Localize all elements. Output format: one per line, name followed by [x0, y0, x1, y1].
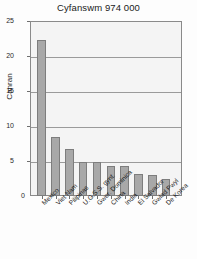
y-tick-label: 5: [0, 157, 14, 164]
bar: [37, 40, 46, 196]
y-tick-label: 25: [0, 17, 14, 24]
y-axis-zero-label: 0: [21, 192, 25, 199]
bar-chart: Cyfanswm 974 000 510152025 Canran 0 Mexi…: [0, 0, 197, 259]
x-axis-labels: 0 MexicoViet NamPilipinasU.G.S.S. gynt.G…: [0, 196, 197, 259]
chart-title: Cyfanswm 974 000: [0, 2, 197, 13]
y-axis-title: Canran: [5, 57, 14, 117]
bars-group: [30, 21, 182, 196]
y-tick-label: 10: [0, 122, 14, 129]
